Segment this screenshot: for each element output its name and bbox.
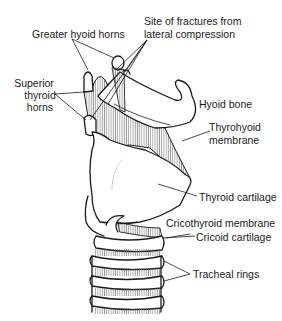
label-fracture-site-line2: lateral compression: [144, 28, 235, 40]
label-thyrohyoid-membrane-line2: membrane: [209, 134, 259, 146]
label-thyroid-cartilage: Thyroid cartilage: [199, 191, 277, 203]
label-thyrohyoid-membrane-line1: Thyrohyoid: [209, 121, 261, 133]
label-hyoid-bone: Hyoid bone: [199, 98, 252, 110]
cricothyroid-membrane-shape: [118, 222, 162, 238]
label-superior-thyroid-horns-line1: Superior: [14, 77, 54, 89]
label-superior-thyroid-horns-line2: thyroid: [22, 89, 58, 101]
label-fracture-site-line1: Site of fractures from: [144, 15, 241, 27]
label-superior-thyroid-horns-line3: horns: [24, 101, 56, 113]
label-tracheal-rings: Tracheal rings: [193, 268, 259, 280]
label-greater-hyoid-horns: Greater hyoid horns: [32, 28, 125, 40]
label-cricoid-cartilage: Cricoid cartilage: [196, 231, 271, 243]
tracheal-rings-shape: [90, 249, 164, 314]
greater-hyoid-horn-left: [84, 72, 93, 92]
label-cricothyroid-membrane: Cricothyroid membrane: [166, 217, 275, 229]
